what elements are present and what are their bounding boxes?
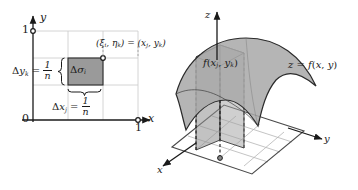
x-axis-label: x bbox=[148, 113, 154, 124]
x-tick-one-label: 1 bbox=[135, 122, 142, 133]
figure-vector-canvas bbox=[0, 0, 358, 190]
figure-container: y x 0 1 1 (ξi, ηk) = (xj, yk) Δσi Δyk = … bbox=[0, 0, 358, 190]
surface-close: ) bbox=[333, 59, 337, 70]
column-height-label: f(xj, yk) bbox=[203, 58, 238, 69]
x-axis-3d bbox=[163, 143, 196, 166]
width-fraction: 1n bbox=[82, 96, 90, 116]
z-axis-label: z bbox=[205, 10, 210, 20]
x-axis-label-3d: x bbox=[157, 165, 163, 175]
cell-width-label: Δxj = 1n bbox=[52, 96, 90, 116]
width-equals: = bbox=[67, 101, 82, 112]
sample-point-label: (ξi, ηk) = (xj, yk) bbox=[96, 39, 166, 49]
sample-point-equals: = bbox=[124, 38, 137, 48]
column-base-point bbox=[218, 156, 223, 161]
surface-equation-label: z = f(x, y) bbox=[288, 60, 337, 70]
sample-point-marker bbox=[101, 56, 106, 61]
y-axis-label-3d: y bbox=[324, 134, 330, 144]
column-close: ) bbox=[234, 57, 238, 68]
y-axis-3d bbox=[288, 128, 322, 139]
sample-point-close2: ) bbox=[162, 38, 166, 48]
cell-area-sub: i bbox=[84, 68, 86, 75]
height-equals: = bbox=[29, 65, 44, 76]
cell-area-label: Δσi bbox=[70, 65, 86, 76]
width-denominator: n bbox=[82, 107, 90, 117]
origin-label: 0 bbox=[22, 113, 29, 124]
cell-height-label: Δyk = 1n bbox=[12, 60, 52, 80]
y-tick-one-label: 1 bbox=[22, 24, 29, 35]
height-fraction: 1n bbox=[43, 60, 51, 80]
height-denominator: n bbox=[43, 71, 51, 81]
surface-equals: = bbox=[293, 59, 308, 70]
y-axis-tick-one bbox=[31, 29, 36, 34]
y-axis-label: y bbox=[40, 12, 46, 23]
height-brace bbox=[58, 58, 65, 85]
